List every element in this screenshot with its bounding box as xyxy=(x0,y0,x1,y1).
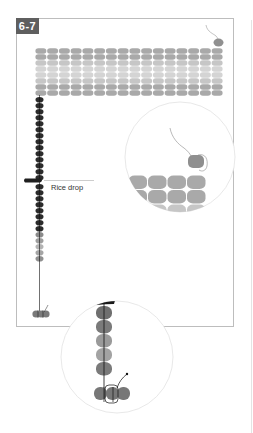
beaded-column xyxy=(36,95,44,312)
rice-drop-label: Rice drop xyxy=(51,183,83,192)
new-bead-top-right xyxy=(206,25,224,47)
bottom-bead-cluster xyxy=(32,305,49,318)
rice-drop xyxy=(24,179,94,183)
magnified-detail-grid-corner xyxy=(125,102,235,233)
magnified-detail-column-end xyxy=(61,297,173,413)
bead-grid xyxy=(35,48,222,95)
beading-diagram xyxy=(0,0,253,433)
